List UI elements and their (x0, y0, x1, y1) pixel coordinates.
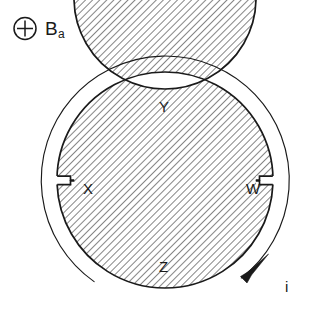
point-label-x: X (83, 181, 93, 196)
field-symbol-base: B (45, 18, 58, 39)
conducting-ring (57, 0, 273, 288)
point-label-w: W (246, 181, 260, 196)
applied-field-label: Ba (45, 19, 65, 40)
current-label: i (285, 279, 288, 294)
field-symbol-subscript: a (58, 27, 65, 41)
point-label-y: Y (159, 99, 169, 114)
current-arrowhead (241, 254, 269, 283)
figure-canvas: Ba Y Z X W i (0, 0, 321, 321)
point-label-z: Z (159, 259, 168, 274)
circled-plus-icon (14, 18, 36, 40)
